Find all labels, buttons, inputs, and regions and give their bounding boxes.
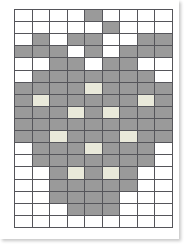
grid-cell[interactable] (32, 10, 50, 22)
grid-cell[interactable] (137, 106, 155, 118)
grid-cell[interactable] (50, 82, 68, 94)
grid-cell[interactable] (102, 22, 120, 34)
grid-cell[interactable] (67, 155, 85, 167)
grid-cell[interactable] (102, 191, 120, 203)
grid-cell[interactable] (67, 179, 85, 191)
grid-cell[interactable] (85, 215, 103, 227)
grid-cell[interactable] (15, 94, 33, 106)
grid-cell[interactable] (50, 118, 68, 130)
grid-cell[interactable] (120, 143, 138, 155)
grid-cell[interactable] (50, 58, 68, 70)
grid-cell[interactable] (32, 58, 50, 70)
grid-cell[interactable] (67, 10, 85, 22)
grid-cell[interactable] (85, 191, 103, 203)
grid-cell[interactable] (155, 118, 173, 130)
grid-cell[interactable] (50, 191, 68, 203)
grid-cell[interactable] (102, 82, 120, 94)
grid-cell[interactable] (32, 179, 50, 191)
grid-cell[interactable] (50, 94, 68, 106)
grid-cell[interactable] (155, 34, 173, 46)
grid-cell[interactable] (15, 70, 33, 82)
grid-cell[interactable] (67, 167, 85, 179)
grid-cell[interactable] (102, 106, 120, 118)
grid-cell[interactable] (15, 82, 33, 94)
grid-cell[interactable] (15, 131, 33, 143)
grid-cell[interactable] (120, 22, 138, 34)
grid-cell[interactable] (137, 215, 155, 227)
grid-cell[interactable] (67, 143, 85, 155)
grid-cell[interactable] (32, 143, 50, 155)
grid-cell[interactable] (15, 22, 33, 34)
grid-cell[interactable] (120, 34, 138, 46)
grid-cell[interactable] (85, 82, 103, 94)
grid-cell[interactable] (85, 46, 103, 58)
grid-cell[interactable] (120, 118, 138, 130)
grid-cell[interactable] (15, 106, 33, 118)
grid-cell[interactable] (85, 118, 103, 130)
grid-cell[interactable] (137, 94, 155, 106)
grid-cell[interactable] (137, 118, 155, 130)
grid-cell[interactable] (50, 179, 68, 191)
grid-cell[interactable] (67, 106, 85, 118)
grid-cell[interactable] (50, 106, 68, 118)
grid-cell[interactable] (67, 203, 85, 215)
grid-cell[interactable] (120, 70, 138, 82)
grid-cell[interactable] (85, 22, 103, 34)
grid-cell[interactable] (155, 143, 173, 155)
grid-cell[interactable] (137, 155, 155, 167)
grid-cell[interactable] (32, 167, 50, 179)
grid-cell[interactable] (155, 203, 173, 215)
grid-cell[interactable] (85, 70, 103, 82)
grid-cell[interactable] (102, 155, 120, 167)
grid-cell[interactable] (120, 155, 138, 167)
grid-cell[interactable] (155, 22, 173, 34)
grid-cell[interactable] (137, 131, 155, 143)
grid-cell[interactable] (50, 22, 68, 34)
grid-cell[interactable] (102, 70, 120, 82)
grid-cell[interactable] (50, 143, 68, 155)
grid-cell[interactable] (15, 10, 33, 22)
grid-cell[interactable] (15, 203, 33, 215)
grid-cell[interactable] (32, 82, 50, 94)
grid-cell[interactable] (102, 118, 120, 130)
grid-cell[interactable] (120, 167, 138, 179)
grid-cell[interactable] (120, 94, 138, 106)
grid-cell[interactable] (102, 179, 120, 191)
grid-cell[interactable] (155, 106, 173, 118)
grid-cell[interactable] (155, 94, 173, 106)
grid-cell[interactable] (137, 22, 155, 34)
grid-cell[interactable] (137, 10, 155, 22)
grid-cell[interactable] (50, 131, 68, 143)
grid-cell[interactable] (137, 191, 155, 203)
grid-cell[interactable] (32, 46, 50, 58)
grid-cell[interactable] (32, 70, 50, 82)
grid-cell[interactable] (15, 143, 33, 155)
grid-cell[interactable] (120, 215, 138, 227)
grid-cell[interactable] (120, 58, 138, 70)
grid-cell[interactable] (102, 203, 120, 215)
grid-cell[interactable] (32, 106, 50, 118)
grid-cell[interactable] (85, 203, 103, 215)
grid-cell[interactable] (85, 34, 103, 46)
grid-cell[interactable] (85, 94, 103, 106)
grid-cell[interactable] (85, 58, 103, 70)
grid-cell[interactable] (155, 10, 173, 22)
grid-cell[interactable] (102, 94, 120, 106)
grid-cell[interactable] (15, 167, 33, 179)
grid-cell[interactable] (137, 34, 155, 46)
grid-cell[interactable] (50, 10, 68, 22)
grid-cell[interactable] (32, 118, 50, 130)
grid-cell[interactable] (137, 167, 155, 179)
grid-cell[interactable] (137, 58, 155, 70)
grid-cell[interactable] (155, 167, 173, 179)
grid-cell[interactable] (67, 82, 85, 94)
grid-cell[interactable] (67, 70, 85, 82)
grid-cell[interactable] (102, 34, 120, 46)
grid-cell[interactable] (50, 215, 68, 227)
grid-cell[interactable] (15, 191, 33, 203)
grid-cell[interactable] (32, 203, 50, 215)
grid-cell[interactable] (120, 10, 138, 22)
grid-cell[interactable] (120, 131, 138, 143)
grid-cell[interactable] (15, 215, 33, 227)
grid-cell[interactable] (120, 82, 138, 94)
